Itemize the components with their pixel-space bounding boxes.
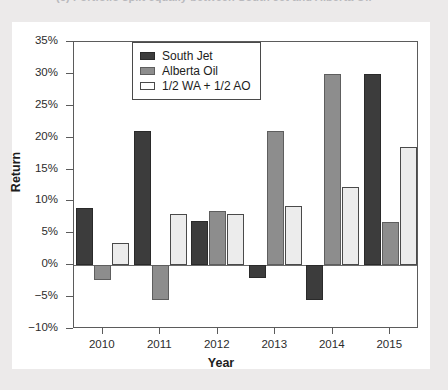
legend-item: South Jet	[140, 48, 251, 63]
y-axis-tick	[66, 137, 73, 138]
x-axis-tick-label: 2010	[72, 338, 132, 350]
bar	[249, 265, 266, 278]
bar	[112, 243, 129, 265]
y-axis-tick-label: 15%	[12, 162, 58, 174]
x-axis-tick	[159, 328, 160, 334]
y-axis-tick-label: 25%	[12, 98, 58, 110]
y-axis-tick	[66, 328, 73, 329]
legend-label: 1/2 WA + 1/2 AO	[162, 79, 251, 93]
x-axis-tick-label: 2014	[302, 338, 362, 350]
x-axis-tick-label: 2012	[187, 338, 247, 350]
y-axis-tick	[66, 232, 73, 233]
bar	[134, 131, 151, 265]
y-axis-tick-label: 5%	[12, 225, 58, 237]
y-axis-tick-label: 20%	[12, 130, 58, 142]
bar	[170, 214, 187, 265]
bar	[364, 74, 381, 265]
y-axis-tick	[66, 41, 73, 42]
chart-card: Return Year −10%−5%0%5%10%15%20%25%30%35…	[12, 22, 430, 369]
y-axis-tick	[66, 73, 73, 74]
x-axis-tick-label: 2013	[244, 338, 304, 350]
x-axis-tick	[102, 328, 103, 334]
figure-caption: (c) Portfolio split equally between Sout…	[56, 0, 372, 3]
y-axis-tick-label: 10%	[12, 193, 58, 205]
bar	[94, 265, 111, 280]
y-axis-tick-label: −5%	[12, 289, 58, 301]
x-axis-tick-label: 2015	[359, 338, 419, 350]
x-axis-tick	[274, 328, 275, 334]
bar	[209, 211, 226, 265]
y-axis-tick	[66, 105, 73, 106]
bar	[191, 221, 208, 266]
legend-label: South Jet	[162, 49, 213, 63]
legend-item: Alberta Oil	[140, 63, 251, 78]
y-axis-tick	[66, 296, 73, 297]
bar	[306, 265, 323, 300]
legend-swatch	[140, 82, 155, 90]
bar	[267, 131, 284, 265]
y-axis-tick-label: 30%	[12, 66, 58, 78]
figure-caption-strip: (c) Portfolio split equally between Sout…	[0, 0, 448, 12]
bar	[227, 214, 244, 265]
y-axis-tick-label: −10%	[12, 321, 58, 333]
x-axis-tick	[217, 328, 218, 334]
bar	[152, 265, 169, 300]
y-axis-tick	[66, 264, 73, 265]
bar	[400, 147, 417, 265]
y-axis-tick-label: 35%	[12, 34, 58, 46]
y-axis-tick	[66, 200, 73, 201]
bar	[382, 222, 399, 265]
x-axis-tick	[332, 328, 333, 334]
bar	[285, 206, 302, 265]
x-axis-title: Year	[12, 356, 430, 370]
legend-swatch	[140, 52, 155, 60]
legend-label: Alberta Oil	[162, 64, 218, 78]
legend-swatch	[140, 67, 155, 75]
bar	[342, 187, 359, 265]
y-axis-tick	[66, 169, 73, 170]
legend-item: 1/2 WA + 1/2 AO	[140, 78, 251, 93]
x-axis-tick	[389, 328, 390, 334]
bar	[324, 74, 341, 265]
y-axis-tick-label: 0%	[12, 257, 58, 269]
x-axis-tick-label: 2011	[129, 338, 189, 350]
chart-legend: South JetAlberta Oil1/2 WA + 1/2 AO	[132, 42, 261, 100]
bar	[76, 208, 93, 265]
